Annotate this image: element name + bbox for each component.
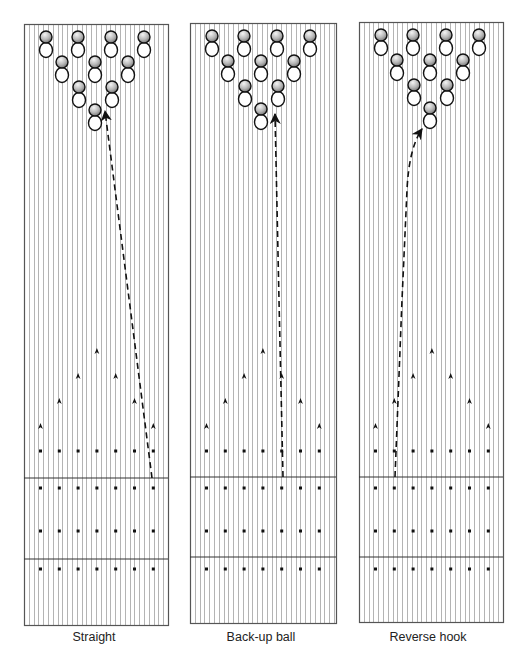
- lane-dot: [261, 568, 264, 571]
- bowling-pin-icon: [407, 29, 420, 56]
- lane-dot: [374, 568, 377, 571]
- lane-dot: [152, 530, 155, 533]
- bowling-pin-icon: [441, 79, 454, 106]
- lane-dot: [299, 530, 302, 533]
- lane-dot: [243, 568, 246, 571]
- bowling-pin-icon: [122, 56, 135, 83]
- lane-dot: [412, 487, 415, 490]
- lane-dot: [152, 450, 155, 453]
- bowling-pin-icon: [288, 55, 301, 82]
- lane-dot: [114, 568, 117, 571]
- bowling-pin-icon: [238, 30, 251, 57]
- lane-label-straight: Straight: [14, 630, 174, 644]
- bowling-pin-icon: [206, 30, 219, 57]
- lane-dot: [133, 487, 136, 490]
- lane-dot: [95, 530, 98, 533]
- lane-dot: [374, 487, 377, 490]
- lane-dot: [39, 450, 42, 453]
- lanes-diagram: [0, 0, 526, 672]
- bowling-pin-icon: [105, 31, 118, 58]
- lane-dot: [243, 530, 246, 533]
- bowling-pin-icon: [89, 56, 102, 83]
- lane-label-reverse-hook: Reverse hook: [348, 630, 508, 644]
- lane-back-up-ball: [190, 23, 337, 624]
- lane-dot: [133, 450, 136, 453]
- bowling-pin-icon: [473, 29, 486, 56]
- bowling-pin-icon: [73, 81, 86, 108]
- lane-dot: [58, 487, 61, 490]
- lane-dot: [299, 450, 302, 453]
- lane-dot: [430, 450, 433, 453]
- lane-dot: [58, 450, 61, 453]
- bowling-pin-icon: [408, 79, 421, 106]
- lane-dot: [412, 450, 415, 453]
- bowling-pin-icon: [271, 30, 284, 57]
- lane-dot: [449, 530, 452, 533]
- lane-dot: [468, 568, 471, 571]
- lane-dot: [412, 568, 415, 571]
- bowling-pin-icon: [375, 29, 388, 56]
- lanes-group: [24, 22, 504, 626]
- lane-dot: [487, 487, 490, 490]
- lane-dot: [393, 568, 396, 571]
- lane-dot: [468, 487, 471, 490]
- lane-dot: [393, 530, 396, 533]
- lane-dot: [77, 568, 80, 571]
- lane-dot: [205, 450, 208, 453]
- lane-dot: [449, 568, 452, 571]
- lane-dot: [393, 487, 396, 490]
- lane-dot: [449, 450, 452, 453]
- lane-dot: [318, 568, 321, 571]
- lane-dot: [152, 568, 155, 571]
- lane-dot: [95, 450, 98, 453]
- bowling-pin-icon: [255, 55, 268, 82]
- lane-label-back-up-ball: Back-up ball: [181, 630, 341, 644]
- lane-dot: [95, 568, 98, 571]
- lane-dot: [261, 450, 264, 453]
- lane-dot: [318, 530, 321, 533]
- lane-dot: [133, 568, 136, 571]
- lane-dot: [224, 450, 227, 453]
- lane-dot: [243, 450, 246, 453]
- lane-dot: [224, 487, 227, 490]
- bowling-pin-icon: [424, 54, 437, 81]
- lane-dot: [430, 568, 433, 571]
- lane-dot: [77, 530, 80, 533]
- lane-dot: [205, 568, 208, 571]
- lane-dot: [114, 450, 117, 453]
- lane-dot: [39, 487, 42, 490]
- lane-dot: [487, 450, 490, 453]
- bowling-pin-icon: [222, 55, 235, 82]
- lane-dot: [77, 487, 80, 490]
- lane-dot: [412, 530, 415, 533]
- lane-dot: [114, 487, 117, 490]
- bowling-pin-icon: [424, 102, 437, 129]
- lane-dot: [114, 530, 117, 533]
- lane-dot: [39, 568, 42, 571]
- bowling-pin-icon: [304, 30, 317, 57]
- lane-dot: [280, 487, 283, 490]
- lane-straight: [24, 24, 169, 626]
- lane-dot: [261, 530, 264, 533]
- lane-dot: [58, 530, 61, 533]
- lane-dot: [58, 568, 61, 571]
- bowling-pin-icon: [440, 29, 453, 56]
- bowling-lanes-figure: Straight Back-up ball Reverse hook: [0, 0, 526, 672]
- bowling-pin-icon: [40, 31, 53, 58]
- lane-dot: [224, 568, 227, 571]
- lane-dot: [133, 530, 136, 533]
- lane-dot: [77, 450, 80, 453]
- bowling-pin-icon: [138, 31, 151, 58]
- lane-dot: [468, 450, 471, 453]
- lane-dot: [487, 568, 490, 571]
- bowling-pin-icon: [272, 80, 285, 107]
- lane-dot: [205, 530, 208, 533]
- lane-dot: [152, 487, 155, 490]
- bowling-pin-icon: [89, 104, 102, 131]
- lane-dot: [205, 487, 208, 490]
- lane-dot: [280, 568, 283, 571]
- lane-dot: [95, 487, 98, 490]
- bowling-pin-icon: [56, 56, 69, 83]
- lane-dot: [430, 530, 433, 533]
- lane-dot: [39, 530, 42, 533]
